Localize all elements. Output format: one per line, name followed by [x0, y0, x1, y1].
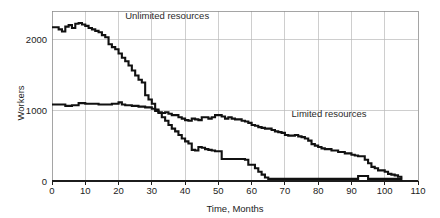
x-tick-label: 10	[80, 185, 91, 196]
series-annotations: Unlimited resourcesLimited resources	[125, 10, 367, 118]
x-tick-label: 0	[49, 185, 54, 196]
y-tick-label: 0	[42, 176, 47, 187]
x-axis-title: Time, Months	[206, 203, 263, 214]
chart-container: 0102030405060708090100110 010002000 Unli…	[0, 0, 440, 218]
y-axis-title: Workers	[15, 85, 26, 120]
series-annotation-label: Unlimited resources	[125, 10, 209, 21]
workers-vs-time-chart: 0102030405060708090100110 010002000 Unli…	[0, 0, 440, 218]
x-axis-tick-labels: 0102030405060708090100110	[49, 185, 425, 196]
x-tick-label: 110	[410, 185, 425, 196]
x-tick-label: 50	[213, 185, 224, 196]
x-tick-label: 80	[313, 185, 324, 196]
tick-marks	[52, 181, 418, 185]
x-tick-label: 60	[246, 185, 257, 196]
x-tick-label: 20	[113, 185, 124, 196]
y-tick-label: 2000	[26, 34, 47, 45]
x-tick-label: 90	[346, 185, 357, 196]
data-series	[52, 23, 401, 181]
series-line-unlimited-resources	[52, 23, 401, 181]
y-axis-tick-labels: 010002000	[26, 34, 47, 187]
x-tick-label: 40	[180, 185, 191, 196]
y-tick-label: 1000	[26, 105, 47, 116]
x-tick-label: 100	[377, 185, 393, 196]
series-annotation-label: Limited resources	[292, 108, 367, 119]
x-tick-label: 70	[280, 185, 291, 196]
x-tick-label: 30	[147, 185, 158, 196]
